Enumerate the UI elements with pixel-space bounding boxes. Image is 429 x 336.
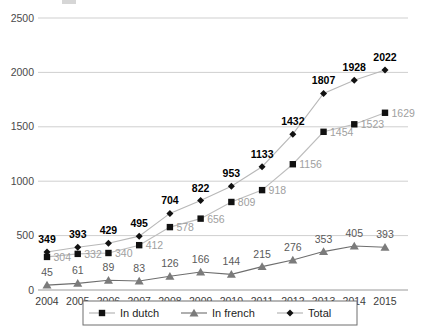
- value-label-total-2013: 1807: [312, 74, 336, 86]
- marker-in-dutch-2009: [197, 215, 203, 221]
- value-label-in-french-2011: 215: [253, 248, 271, 260]
- value-label-in-french-2012: 276: [284, 241, 302, 253]
- value-label-total-2005: 393: [69, 228, 87, 240]
- line-chart: 05001000150020002500 2004200520062007200…: [0, 0, 429, 336]
- line-total: [47, 70, 385, 252]
- value-label-in-dutch-2005: 332: [84, 248, 102, 260]
- square-icon: [99, 310, 105, 316]
- value-label-in-french-2006: 89: [103, 261, 115, 273]
- marker-in-dutch-2008: [167, 224, 173, 230]
- marker-in-dutch-2007: [136, 242, 142, 248]
- marker-total-2010: [228, 183, 235, 190]
- value-label-in-dutch-2012: 1156: [299, 158, 322, 170]
- value-label-total-2004: 349: [38, 233, 56, 245]
- y-tick-500: 500: [16, 229, 34, 241]
- value-label-in-dutch-2008: 578: [176, 221, 194, 233]
- value-label-in-dutch-2013: 1454: [330, 126, 354, 138]
- chart-canvas: 05001000150020002500 2004200520062007200…: [0, 0, 429, 336]
- marker-total-2009: [197, 197, 204, 204]
- value-label-in-french-2013: 353: [315, 233, 333, 245]
- value-label-in-dutch-2015: 1629: [392, 107, 416, 119]
- chart-legend[interactable]: In dutchIn frenchTotal: [83, 301, 357, 325]
- legend-label: Total: [308, 307, 331, 319]
- value-label-in-french-2007: 83: [133, 262, 145, 274]
- value-label-in-french-2010: 144: [223, 255, 241, 267]
- marker-in-dutch-2006: [105, 250, 111, 256]
- value-label-total-2011: 1133: [251, 148, 274, 160]
- y-tick-0: 0: [28, 284, 34, 296]
- value-label-in-french-2014: 405: [346, 227, 364, 239]
- y-tick-2000: 2000: [11, 66, 35, 78]
- marker-in-dutch-2011: [259, 187, 265, 193]
- y-tick-1000: 1000: [11, 175, 35, 187]
- y-tick-2500: 2500: [11, 12, 35, 24]
- legend-label: In french: [212, 307, 255, 319]
- value-label-in-dutch-2014: 1523: [361, 118, 385, 130]
- x-tick-2004: 2004: [35, 295, 59, 307]
- value-label-in-dutch-2011: 918: [269, 184, 287, 196]
- value-label-total-2015: 2022: [373, 51, 397, 63]
- marker-total-2006: [105, 240, 112, 247]
- value-label-in-dutch-2009: 656: [207, 213, 225, 225]
- marker-in-dutch-2010: [228, 199, 234, 205]
- value-label-total-2014: 1928: [343, 61, 367, 73]
- marker-in-dutch-2012: [290, 161, 296, 167]
- value-label-in-french-2009: 166: [192, 253, 210, 265]
- value-label-in-dutch-2010: 809: [238, 196, 256, 208]
- value-label-total-2006: 429: [100, 224, 118, 236]
- value-label-in-french-2005: 61: [72, 264, 84, 276]
- value-label-in-french-2008: 126: [161, 257, 179, 269]
- value-label-total-2009: 822: [192, 182, 210, 194]
- value-label-total-2010: 953: [223, 167, 241, 179]
- data-value-labels: 3493934294957048229531133143218071928202…: [38, 51, 415, 278]
- y-tick-1500: 1500: [11, 120, 35, 132]
- marker-total-2005: [74, 244, 81, 251]
- value-label-in-french-2015: 393: [376, 228, 394, 240]
- value-label-in-dutch-2007: 412: [146, 239, 164, 251]
- truncated-title-artifact: [62, 0, 76, 4]
- marker-in-french-2009: [196, 268, 205, 276]
- marker-in-french-2014: [350, 242, 359, 250]
- marker-total-2014: [351, 77, 358, 84]
- value-label-in-dutch-2004: 304: [54, 251, 72, 263]
- value-label-total-2008: 704: [161, 194, 179, 206]
- value-label-total-2012: 1432: [281, 115, 305, 127]
- value-label-in-dutch-2006: 340: [115, 247, 133, 259]
- y-axis-tick-labels: 05001000150020002500: [11, 12, 35, 296]
- marker-in-dutch-2005: [75, 251, 81, 257]
- value-label-total-2007: 495: [130, 217, 148, 229]
- marker-in-dutch-2015: [382, 110, 388, 116]
- legend-label: In dutch: [120, 307, 159, 319]
- value-label-in-french-2004: 45: [41, 266, 53, 278]
- marker-in-dutch-2013: [320, 129, 326, 135]
- x-tick-2015: 2015: [373, 295, 397, 307]
